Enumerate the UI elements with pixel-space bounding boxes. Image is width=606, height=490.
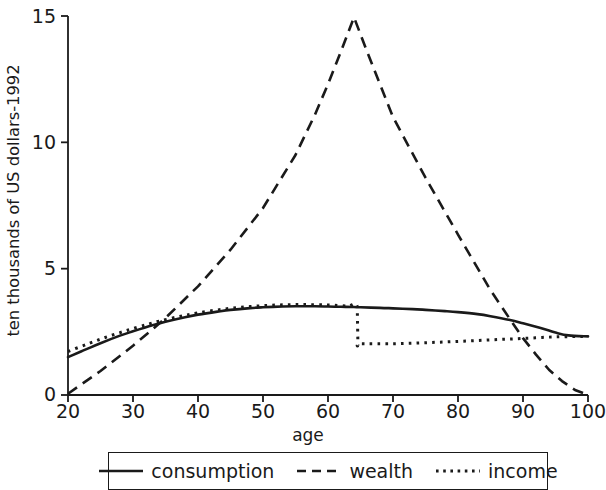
dotted-line-swatch [435, 465, 481, 477]
legend-label-income: income [488, 460, 558, 482]
legend-entry-wealth: wealth [285, 460, 424, 482]
x-tick-label-100: 100 [563, 400, 606, 422]
legend-label-wealth: wealth [349, 460, 413, 482]
series-group [68, 17, 588, 395]
x-tick-label-30: 30 [108, 400, 158, 422]
x-tick-label-50: 50 [238, 400, 288, 422]
x-axis-title: age [283, 425, 333, 445]
y-tick-marks [61, 16, 68, 395]
legend-entry-income: income [424, 460, 569, 482]
solid-line-swatch [98, 465, 144, 477]
series-line-income [68, 304, 588, 352]
y-tick-label-5: 5 [22, 257, 56, 279]
legend-entry-consumption: consumption [87, 460, 285, 482]
dashed-line-swatch [296, 465, 342, 477]
x-tick-label-80: 80 [433, 400, 483, 422]
legend-label-consumption: consumption [151, 460, 274, 482]
x-tick-label-20: 20 [43, 400, 93, 422]
y-axis-title-wrapper: ten thousands of US dollars-1992 [0, 0, 26, 400]
y-tick-label-10: 10 [22, 131, 56, 153]
series-line-wealth [68, 17, 588, 395]
y-axis-title: ten thousands of US dollars-1992 [4, 64, 23, 336]
x-tick-label-90: 90 [498, 400, 548, 422]
x-tick-label-70: 70 [368, 400, 418, 422]
axes-group [61, 16, 588, 402]
x-tick-label-40: 40 [173, 400, 223, 422]
y-tick-label-15: 15 [22, 5, 56, 27]
series-line-consumption [68, 306, 588, 357]
x-tick-label-60: 60 [303, 400, 353, 422]
chart-legend: consumption wealth income [108, 452, 548, 490]
